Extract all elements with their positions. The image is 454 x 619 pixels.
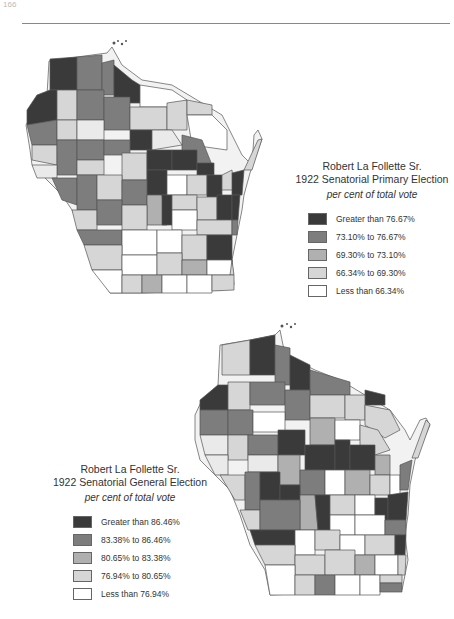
legend-item: Greater than 76.67% <box>308 210 454 228</box>
general-legend: Robert La Follette Sr. 1922 Senatorial G… <box>40 463 220 603</box>
legend-swatch <box>73 588 92 600</box>
legend-subtitle: per cent of total vote <box>40 491 220 505</box>
legend-title-line1: Robert La Follette Sr. <box>40 463 220 476</box>
primary-election-map <box>22 35 272 305</box>
legend-item: 69.30% to 73.10% <box>308 246 454 264</box>
primary-legend: Robert La Follette Sr. 1922 Senatorial P… <box>290 160 454 300</box>
legend-item: Greater than 86.46% <box>73 513 220 531</box>
legend-swatch <box>73 516 92 528</box>
general-election-map <box>190 320 440 610</box>
legend-subtitle: per cent of total vote <box>290 188 454 202</box>
legend-swatch <box>308 231 327 243</box>
legend-swatch <box>73 570 92 582</box>
legend-item: 76.94% to 80.65% <box>73 567 220 585</box>
legend-item: 80.65% to 83.38% <box>73 549 220 567</box>
page-number: 166 <box>3 0 16 9</box>
legend-swatch <box>73 534 92 546</box>
legend-title-line1: Robert La Follette Sr. <box>290 160 454 173</box>
legend-item: 73.10% to 76.67% <box>308 228 454 246</box>
legend-swatch <box>308 267 327 279</box>
legend-title-line2: 1922 Senatorial Primary Election <box>290 173 454 186</box>
legend-item: Less than 66.34% <box>308 282 454 300</box>
header-rule <box>22 23 450 24</box>
legend-item: 83.38% to 86.46% <box>73 531 220 549</box>
legend-swatch <box>308 213 327 225</box>
legend-item: 66.34% to 69.30% <box>308 264 454 282</box>
legend-item: Less than 76.94% <box>73 585 220 603</box>
legend-swatch <box>308 285 327 297</box>
legend-swatch <box>73 552 92 564</box>
legend-title-line2: 1922 Senatorial General Election <box>40 476 220 489</box>
legend-swatch <box>308 249 327 261</box>
